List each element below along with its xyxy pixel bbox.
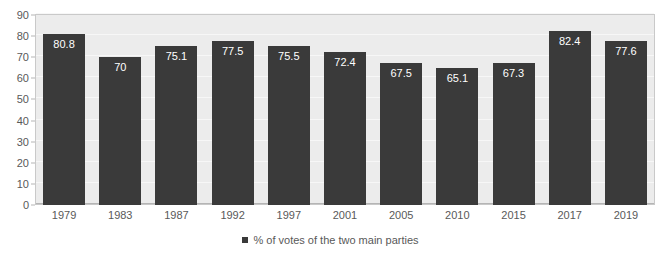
- y-axis-tick-mark: [31, 183, 35, 184]
- x-axis-tick-label: 1997: [261, 208, 317, 222]
- bar[interactable]: 67.3: [493, 63, 535, 205]
- bar-group: 67.3: [493, 15, 535, 205]
- y-axis-tick-label: 20: [17, 157, 29, 168]
- y-axis-tick-mark: [31, 99, 35, 100]
- bar-value-label: 72.4: [324, 56, 366, 68]
- x-axis-tick-label: 1992: [205, 208, 261, 222]
- y-axis-tick-label: 0: [23, 200, 29, 211]
- x-axis-tick-label: 2005: [373, 208, 429, 222]
- y-axis-tick-label: 70: [17, 52, 29, 63]
- y-axis-tick-label: 90: [17, 10, 29, 21]
- bar[interactable]: 82.4: [549, 31, 591, 205]
- bar-group: 75.1: [155, 15, 197, 205]
- bar[interactable]: 67.5: [380, 63, 422, 206]
- bar-group: 77.6: [605, 15, 647, 205]
- bar[interactable]: 75.5: [268, 46, 310, 205]
- bars-container: 80.87075.177.575.572.467.565.167.382.477…: [36, 15, 654, 205]
- y-axis-tick-mark: [31, 120, 35, 121]
- x-axis-tick-label: 2017: [542, 208, 598, 222]
- x-axis-tick-label: 2010: [429, 208, 485, 222]
- bar-group: 72.4: [324, 15, 366, 205]
- y-axis-tick-label: 60: [17, 73, 29, 84]
- bar-group: 77.5: [212, 15, 254, 205]
- bar-value-label: 80.8: [43, 38, 85, 50]
- x-axis-tick-label: 1979: [36, 208, 92, 222]
- bar-group: 67.5: [380, 15, 422, 205]
- bar-value-label: 82.4: [549, 35, 591, 47]
- x-axis: 1979198319871992199720012005201020152017…: [36, 208, 654, 228]
- bar-value-label: 75.5: [268, 50, 310, 62]
- bar[interactable]: 80.8: [43, 34, 85, 205]
- bar-value-label: 75.1: [155, 50, 197, 62]
- bar-chart: 0102030405060708090 80.87075.177.575.572…: [0, 0, 661, 256]
- bar[interactable]: 65.1: [436, 68, 478, 205]
- bar[interactable]: 77.6: [605, 41, 647, 205]
- y-axis-tick-mark: [31, 205, 35, 206]
- bar-value-label: 67.5: [380, 67, 422, 79]
- square-marker-icon: [242, 237, 248, 243]
- bar-group: 65.1: [436, 15, 478, 205]
- y-axis-tick-mark: [31, 162, 35, 163]
- bar-value-label: 77.6: [605, 45, 647, 57]
- y-axis-tick-label: 30: [17, 136, 29, 147]
- bar[interactable]: 72.4: [324, 52, 366, 205]
- gridline: [36, 13, 654, 14]
- y-axis-tick-label: 50: [17, 94, 29, 105]
- chart-legend: % of votes of the two main parties: [0, 232, 661, 248]
- y-axis: 0102030405060708090: [0, 0, 35, 206]
- x-axis-tick-label: 2015: [485, 208, 541, 222]
- bar-group: 82.4: [549, 15, 591, 205]
- bar[interactable]: 75.1: [155, 46, 197, 205]
- legend-item-label: % of votes of the two main parties: [253, 234, 418, 247]
- y-axis-tick-label: 10: [17, 178, 29, 189]
- y-axis-tick-mark: [31, 36, 35, 37]
- y-axis-tick-mark: [31, 15, 35, 16]
- bar-value-label: 70: [99, 61, 141, 73]
- y-axis-tick-mark: [31, 57, 35, 58]
- bar-value-label: 77.5: [212, 45, 254, 57]
- bar-value-label: 67.3: [493, 67, 535, 79]
- bar-group: 80.8: [43, 15, 85, 205]
- y-axis-tick-label: 40: [17, 115, 29, 126]
- y-axis-tick-mark: [31, 78, 35, 79]
- bar[interactable]: 77.5: [212, 41, 254, 205]
- x-axis-tick-label: 1987: [148, 208, 204, 222]
- bar[interactable]: 70: [99, 57, 141, 205]
- x-axis-tick-label: 1983: [92, 208, 148, 222]
- bar-group: 75.5: [268, 15, 310, 205]
- bar-group: 70: [99, 15, 141, 205]
- x-axis-tick-label: 2019: [598, 208, 654, 222]
- y-axis-tick-label: 80: [17, 31, 29, 42]
- x-axis-tick-label: 2001: [317, 208, 373, 222]
- bar-value-label: 65.1: [436, 72, 478, 84]
- y-axis-tick-mark: [31, 141, 35, 142]
